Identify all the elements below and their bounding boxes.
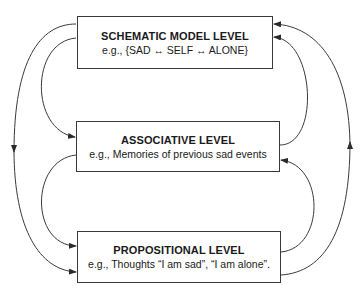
level-title: PROPOSITIONAL LEVEL	[113, 243, 244, 257]
arrow-schematic-to-left-outer	[14, 24, 76, 152]
arrow-propositional-to-right-outer	[281, 142, 350, 275]
level-title: SCHEMATIC MODEL LEVEL	[101, 29, 249, 43]
level-title: ASSOCIATIVE LEVEL	[121, 133, 235, 147]
diagram-canvas: SCHEMATIC MODEL LEVEL e.g., {SAD ↔ SELF …	[0, 0, 361, 291]
arrow-propositional-to-associative	[281, 160, 314, 252]
arrow-left-outer-to-propositional	[14, 150, 76, 272]
level-example: e.g., Memories of previous sad events	[89, 147, 266, 161]
arrow-right-outer-to-schematic	[274, 24, 350, 148]
schematic-model-level-box: SCHEMATIC MODEL LEVEL e.g., {SAD ↔ SELF …	[77, 16, 273, 69]
level-example: e.g., Thoughts “I am sad”, “I am alone”.	[88, 257, 270, 271]
level-example: e.g., {SAD ↔ SELF ↔ ALONE}	[102, 43, 248, 57]
arrow-schematic-to-associative	[41, 38, 76, 137]
arrow-associative-to-propositional	[42, 155, 77, 246]
associative-level-box: ASSOCIATIVE LEVEL e.g., Memories of prev…	[76, 121, 280, 172]
propositional-level-box: PROPOSITIONAL LEVEL e.g., Thoughts “I am…	[77, 231, 281, 283]
